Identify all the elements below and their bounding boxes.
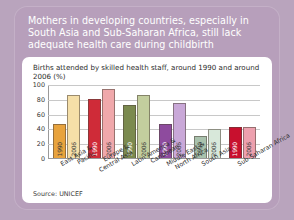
y-axis-tick-label: 100 — [33, 81, 45, 89]
chart-title: Births attended by skilled health staff,… — [33, 63, 261, 81]
headline-block: Mothers in developing countries, especia… — [14, 6, 280, 59]
bar-year-label: 1990 — [232, 142, 238, 156]
bar: 2006 — [102, 89, 115, 158]
poster-page: Mothers in developing countries, especia… — [0, 0, 294, 220]
info-card: Mothers in developing countries, especia… — [14, 6, 280, 210]
bar: 1990 — [229, 127, 242, 158]
chart-panel: Births attended by skilled health staff,… — [22, 57, 272, 203]
bar-year-label: 1990 — [57, 142, 63, 156]
y-axis-tick-label: 40 — [37, 125, 45, 133]
page-title: Mothers in developing countries, especia… — [28, 15, 268, 52]
bar: 2006 — [137, 95, 150, 159]
y-axis-tick-label: 0 — [41, 155, 45, 163]
source-note: Source: UNICEF — [33, 190, 83, 198]
y-axis-tick-label: 80 — [37, 96, 45, 104]
y-axis-tick-label: 60 — [37, 111, 45, 119]
bar-group: 19902006 — [49, 85, 84, 158]
y-axis-tick-label: 20 — [37, 140, 45, 148]
bar: 1990 — [53, 124, 66, 158]
